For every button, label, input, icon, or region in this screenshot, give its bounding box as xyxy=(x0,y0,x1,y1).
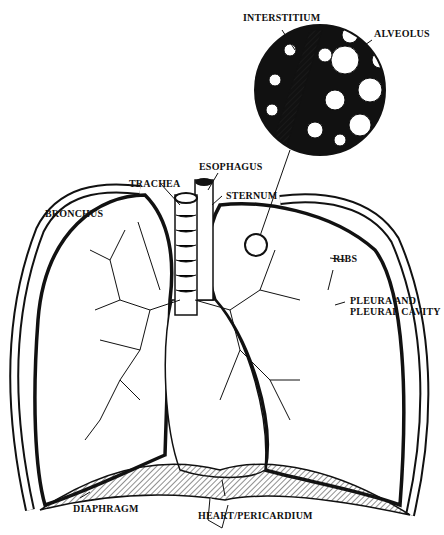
label-sternum: STERNUM xyxy=(226,190,277,201)
label-trachea: TRACHEA xyxy=(129,178,180,189)
trachea xyxy=(175,195,197,315)
alveoli-inset xyxy=(255,25,388,155)
label-pleura-line2: PLEURAL CAVITY xyxy=(350,306,441,317)
label-bronchus: BRONCHUS xyxy=(45,208,103,219)
label-esophagus: ESOPHAGUS xyxy=(199,161,262,172)
label-heart-pericardium: HEART/PERICARDIUM xyxy=(198,510,313,521)
label-ribs: RIBS xyxy=(333,253,357,264)
left-lung xyxy=(35,195,172,505)
lung-diagram xyxy=(0,0,444,535)
label-alveolus: ALVEOLUS xyxy=(374,28,430,39)
label-pleura-line1: PLEURA AND xyxy=(350,295,416,306)
label-interstitium: INTERSTITIUM xyxy=(243,12,320,23)
label-diaphragm: DIAPHRAGM xyxy=(73,503,139,514)
